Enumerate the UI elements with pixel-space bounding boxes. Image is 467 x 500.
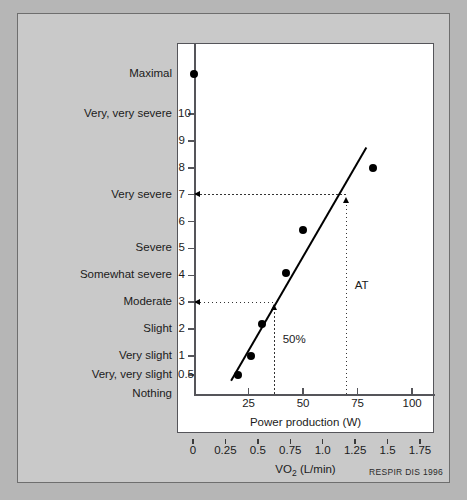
data-point-maximal	[190, 70, 198, 78]
vertical-reference-line	[274, 308, 275, 394]
vo2-axis-tick-label: 1.75	[409, 445, 431, 457]
source-credit: RESPIR DIS 1996	[369, 467, 443, 477]
y-axis-category-label: Nothing	[26, 388, 172, 400]
axes-area: Maximal10Very, very severe987Very severe…	[178, 44, 433, 432]
reference-arrow-left	[194, 299, 200, 305]
y-axis-category-label: Slight	[26, 323, 172, 335]
vo2-axis-tick-label: 0.75	[279, 445, 301, 457]
data-point	[282, 269, 290, 277]
data-point	[234, 371, 242, 379]
y-axis-category-label: Severe	[26, 243, 172, 255]
data-point	[247, 352, 255, 360]
data-point	[369, 164, 377, 172]
y-axis-category-label: Somewhat severe	[26, 270, 172, 282]
regression-line	[178, 44, 435, 434]
horizontal-reference-line	[196, 194, 347, 195]
vo2-label-unit: (L/min)	[297, 463, 336, 475]
figure-panel: Maximal10Very, very severe987Very severe…	[17, 13, 450, 483]
vo2-axis-tick-label: 0.5	[250, 445, 266, 457]
vo2-axis-tick-label: 1.25	[344, 445, 366, 457]
vertical-reference-line	[346, 201, 347, 394]
y-axis-category-label: Very severe	[26, 189, 172, 201]
vo2-axis-tick-label: 0	[190, 445, 196, 457]
annotation-label: AT	[355, 280, 369, 292]
horizontal-reference-line	[196, 302, 275, 303]
y-axis-category-label: Very, very severe	[26, 108, 172, 120]
y-axis-category-label: Moderate	[26, 296, 172, 308]
vo2-axis-tick-label: 1.0	[315, 445, 331, 457]
vo2-axis-tick-label: 1.5	[380, 445, 396, 457]
y-axis-category-label: Very slight	[26, 350, 172, 362]
vo2-axis-tick-label: 0.25	[214, 445, 236, 457]
reference-arrow-up	[343, 197, 349, 203]
y-axis-category-label: Maximal	[26, 68, 172, 80]
reference-arrow-up	[271, 304, 277, 310]
plot-panel: Maximal10Very, very severe987Very severe…	[177, 43, 434, 433]
reference-arrow-left	[194, 191, 200, 197]
annotation-label: 50%	[283, 334, 306, 346]
data-point	[299, 226, 307, 234]
y-axis-category-label: Very, very slight	[26, 369, 172, 381]
vo2-label-main: VO	[275, 463, 292, 475]
data-point	[258, 320, 266, 328]
